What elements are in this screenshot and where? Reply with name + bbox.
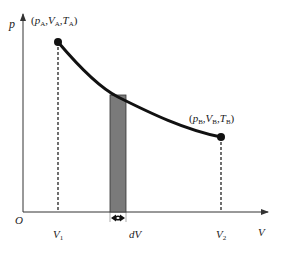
v2-label: V2 (216, 229, 226, 242)
origin-label: O (15, 215, 23, 226)
v1-sub: 1 (60, 234, 64, 242)
state-a-point (54, 38, 62, 46)
v2-symbol: V (216, 228, 223, 240)
diagram-svg (0, 0, 281, 253)
double-arrow-icon (111, 215, 125, 222)
y-axis-label: p (9, 18, 15, 30)
pv-diagram: p V O (pA,VA,TA) (pB,VB,TB) V1 V2 dV (0, 0, 281, 253)
v1-label: V1 (53, 229, 63, 242)
dv-label: dV (129, 229, 141, 240)
v1-symbol: V (53, 228, 60, 240)
x-axis-label: V (258, 227, 265, 238)
state-a-label: (pA,VA,TA) (31, 15, 77, 28)
state-b-label: (pB,VB,TB) (189, 113, 234, 126)
dv-strip (110, 95, 126, 212)
state-a-v: V (48, 14, 55, 26)
v2-sub: 2 (223, 234, 227, 242)
state-b-point (217, 133, 225, 141)
